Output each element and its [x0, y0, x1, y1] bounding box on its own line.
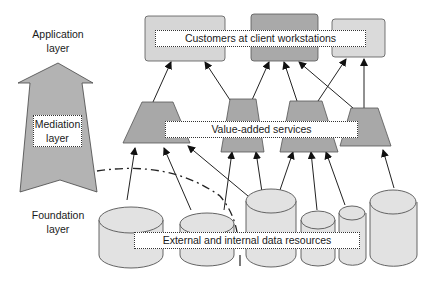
customers-label: Customers at client workstations — [155, 30, 366, 47]
foundation-layer-label: Foundation layer — [22, 208, 94, 236]
services-label: Value-added services — [165, 121, 358, 138]
foundation-label-line1: Foundation — [22, 208, 94, 222]
mediation-layer-label: Mediation layer — [33, 115, 82, 147]
mediation-label-line1: Mediation — [35, 117, 81, 131]
application-layer-label: Application layer — [22, 27, 94, 55]
data-resource-cylinders — [99, 189, 417, 268]
application-label-line2: layer — [22, 41, 94, 55]
foundation-label-line2: layer — [22, 222, 94, 236]
mediation-label-line2: layer — [46, 131, 69, 145]
resources-label: External and internal data resources — [134, 232, 360, 249]
application-label-line1: Application — [22, 27, 94, 41]
service-to-client-arrows — [153, 59, 364, 108]
